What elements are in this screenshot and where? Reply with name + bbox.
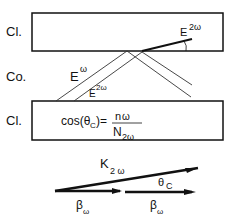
- theta-sub: C: [166, 181, 173, 191]
- beta1-label: β: [76, 198, 83, 212]
- wavevector-diagram: K 2 ω θ C β ω β ω: [55, 156, 198, 216]
- equation-numerator: n: [115, 110, 121, 122]
- radiated-sh-beam: [142, 39, 192, 51]
- cherenkov-phase-matching-diagram: Cl. Co. Cl. E ω E 2ω E 2ω cos(θ C )= n ω…: [0, 0, 234, 224]
- e2w-radiated-label: E: [180, 26, 187, 38]
- e-omega-sup: ω: [80, 64, 87, 74]
- beta2-sub: ω: [157, 207, 163, 216]
- beta2-label: β: [150, 198, 157, 212]
- k-sub: 2 ω: [110, 166, 125, 176]
- e2w-radiated-sup: 2ω: [189, 22, 201, 32]
- k-label: K: [100, 156, 109, 171]
- beta1-arrowhead-icon: [112, 188, 122, 194]
- equation-lhs-close: )=: [96, 114, 107, 128]
- equation-denominator: N: [113, 125, 122, 139]
- e-omega-label: E: [70, 69, 79, 84]
- equation-numerator-sub: ω: [122, 111, 130, 122]
- k2w-arrowhead-icon: [185, 168, 198, 173]
- e2w-guided-label: E: [89, 88, 96, 99]
- theta-label: θ: [158, 176, 164, 188]
- equation-denominator-sub: 2ω: [122, 132, 134, 142]
- angle-arc: [184, 41, 186, 51]
- beta1-sub: ω: [83, 207, 89, 216]
- phase-matching-equation: cos(θ C )= n ω N 2ω: [61, 110, 142, 142]
- core-label: Co.: [6, 69, 26, 84]
- beta2-arrowhead-icon: [184, 189, 196, 195]
- top-cladding-label: Cl.: [6, 24, 22, 39]
- equation-lhs: cos(θ: [61, 114, 91, 128]
- k2w-vector: [55, 168, 198, 191]
- top-cladding-box: [32, 13, 223, 51]
- bottom-cladding-label: Cl.: [6, 113, 22, 128]
- e2w-guided-sup: 2ω: [96, 83, 107, 92]
